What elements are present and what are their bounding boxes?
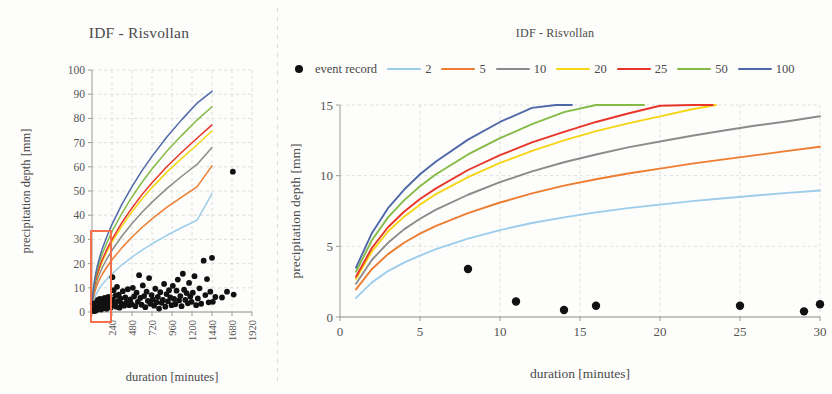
legend-item-20[interactable]: 20 [556, 62, 611, 77]
scatter-point [212, 294, 218, 300]
scatter-point [125, 286, 131, 292]
scatter-point [192, 273, 198, 279]
left-chart-group: 0102030405060708090100240480720960120014… [19, 64, 258, 384]
y-tick-label: 100 [68, 64, 86, 76]
legend-swatch-2 [387, 68, 421, 70]
y-tick-label: 40 [74, 209, 86, 221]
x-tick-label: 480 [127, 320, 138, 336]
y-tick-label: 70 [74, 137, 86, 149]
legend-swatch-10 [496, 68, 530, 70]
scatter-point [207, 289, 213, 295]
right-chart-title: IDF - Risvollan [278, 26, 832, 41]
legend-label-event-record: event record [315, 62, 377, 77]
legend-label-25: 25 [655, 62, 668, 77]
scatter-point [122, 295, 128, 301]
y-tick-label: 0 [79, 306, 85, 318]
x-tick-label: 1920 [247, 320, 258, 341]
scatter-point [174, 288, 180, 294]
scatter-point [142, 304, 148, 310]
scatter-point [120, 288, 126, 294]
y-axis-title: precipitation depth [mm] [19, 129, 33, 254]
left-chart-svg: 0102030405060708090100240480720960120014… [0, 0, 278, 394]
scatter-point [140, 282, 146, 288]
scatter-point [157, 289, 163, 295]
scatter-point [231, 292, 237, 298]
y-tick-label: 60 [74, 161, 86, 173]
legend-item-50[interactable]: 50 [677, 62, 732, 77]
scatter-point [170, 283, 176, 289]
legend-label-5: 5 [479, 62, 485, 77]
scatter-point [230, 169, 236, 175]
scatter-point [193, 302, 199, 308]
legend-marker-dot-icon [295, 65, 303, 73]
y-tick-label: 80 [74, 112, 86, 124]
scatter-point [186, 280, 192, 286]
figure-page: IDF - Risvollan 010203040506070809010024… [0, 0, 832, 394]
scatter-point [224, 289, 230, 295]
scatter-point [190, 290, 196, 296]
scatter-point [152, 286, 158, 292]
scatter-point [117, 296, 123, 302]
legend-label-100: 100 [776, 62, 795, 77]
scatter-point [198, 301, 204, 307]
y-tick-label: 30 [74, 233, 86, 245]
x-axis-title: duration [minutes] [126, 370, 219, 384]
x-tick-label: 1440 [207, 320, 218, 341]
y-tick-label: 90 [74, 88, 86, 100]
scatter-point [180, 271, 186, 277]
scatter-point [154, 299, 160, 305]
legend-item-5[interactable]: 5 [441, 62, 489, 77]
scatter-point [204, 276, 210, 282]
scatter-point [114, 284, 120, 290]
legend-label-2: 2 [425, 62, 431, 77]
scatter-point [130, 285, 136, 291]
left-chart-panel: IDF - Risvollan 010203040506070809010024… [0, 0, 278, 394]
scatter-point [136, 272, 142, 278]
scatter-point [195, 296, 201, 302]
x-tick-label: 720 [147, 320, 158, 336]
legend-label-50: 50 [715, 62, 728, 77]
scatter-point [201, 258, 207, 264]
scatter-point [134, 290, 140, 296]
legend-item-10[interactable]: 10 [496, 62, 551, 77]
x-tick-label: 1200 [187, 320, 198, 341]
legend-swatch-5 [441, 68, 475, 70]
scatter-point [156, 306, 162, 312]
legend-item-2[interactable]: 2 [387, 62, 435, 77]
scatter-point [146, 275, 152, 281]
scatter-point [160, 297, 166, 303]
scatter-point [209, 255, 215, 261]
y-tick-label: 20 [74, 258, 86, 270]
y-tick-label: 50 [74, 185, 86, 197]
scatter-point [219, 295, 225, 301]
zoom-region-highlight-rect [90, 230, 112, 324]
scatter-point [202, 292, 208, 298]
scatter-point [162, 304, 168, 310]
scatter-point [177, 293, 183, 299]
y-tick-label: 10 [74, 282, 86, 294]
scatter-point [175, 277, 181, 283]
legend-swatch-20 [556, 68, 590, 70]
legend-swatch-25 [617, 68, 651, 70]
legend-item-100[interactable]: 100 [738, 62, 799, 77]
legend-item-25[interactable]: 25 [617, 62, 672, 77]
scatter-point [197, 285, 203, 291]
scatter-point [171, 296, 177, 302]
legend-label-20: 20 [594, 62, 607, 77]
legend-swatch-100 [738, 68, 772, 70]
chart-legend: event record2510202550100 [295, 58, 832, 80]
scatter-point [161, 281, 167, 287]
scatter-point [179, 303, 185, 309]
scatter-point [144, 289, 150, 295]
x-tick-label: 960 [167, 320, 178, 336]
legend-item-event-record[interactable]: event record [295, 62, 381, 77]
x-tick-label: 1680 [227, 320, 238, 341]
legend-label-10: 10 [534, 62, 547, 77]
legend-swatch-50 [677, 68, 711, 70]
